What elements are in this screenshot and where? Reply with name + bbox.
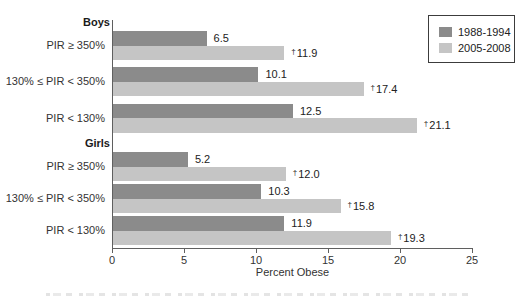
value-label: 5.2 — [195, 153, 210, 165]
category-label: 130% ≤ PIR < 350% — [0, 75, 105, 87]
bar-1988-1994 — [113, 216, 284, 231]
bar-1988-1994 — [113, 31, 207, 46]
legend-box: 1988-1994 2005-2008 — [428, 15, 515, 63]
value-label: 6.5 — [214, 32, 229, 44]
bar-2005-2008 — [113, 167, 286, 182]
bar-2005-2008 — [113, 46, 284, 61]
value-label: †17.4 — [371, 83, 398, 95]
category-label: 130% ≤ PIR < 350% — [0, 192, 105, 204]
x-axis-line — [112, 248, 473, 249]
legend-entry-2005-2008: 2005-2008 — [439, 40, 514, 55]
dagger-footnote-marker: † — [291, 47, 296, 56]
bar-2005-2008 — [113, 118, 417, 133]
dagger-footnote-marker: † — [398, 232, 403, 241]
dagger-footnote-marker: † — [293, 168, 298, 177]
x-axis-tick-label: 0 — [99, 254, 125, 266]
value-label: 10.3 — [268, 185, 289, 197]
section-header-girls: Girls — [0, 137, 110, 149]
bar-2005-2008 — [113, 231, 391, 246]
value-label: 12.5 — [300, 105, 321, 117]
x-axis-tick — [256, 249, 257, 253]
cropped-caption-fragment — [46, 293, 470, 296]
legend-label: 2005-2008 — [458, 42, 511, 54]
legend-label: 1988-1994 — [458, 26, 511, 38]
x-axis-tick-label: 25 — [459, 254, 485, 266]
x-axis-tick-label: 5 — [171, 254, 197, 266]
category-label: PIR < 130% — [0, 112, 105, 124]
bar-1988-1994 — [113, 152, 188, 167]
dagger-footnote-marker: † — [424, 119, 429, 128]
bar-2005-2008 — [113, 82, 364, 97]
value-label: †15.8 — [348, 200, 375, 212]
value-label: 11.9 — [291, 217, 312, 229]
dagger-footnote-marker: † — [348, 200, 353, 209]
x-axis-tick — [112, 249, 113, 253]
x-axis-tick — [472, 249, 473, 253]
x-axis-tick-label: 15 — [315, 254, 341, 266]
value-label: †11.9 — [291, 47, 317, 59]
legend-swatch-light — [439, 43, 452, 53]
section-header-boys: Boys — [0, 16, 110, 28]
x-axis-tick — [184, 249, 185, 253]
value-label: †12.0 — [293, 168, 320, 180]
dagger-footnote-marker: † — [371, 83, 376, 92]
bar-1988-1994 — [113, 104, 293, 119]
bar-1988-1994 — [113, 184, 261, 199]
category-label: PIR ≥ 350% — [0, 39, 105, 51]
x-axis-label: Percent Obese — [112, 266, 473, 278]
x-axis-tick — [400, 249, 401, 253]
bar-1988-1994 — [113, 67, 258, 82]
x-axis-tick — [328, 249, 329, 253]
x-axis-tick-label: 20 — [387, 254, 413, 266]
value-label: †21.1 — [424, 119, 451, 131]
value-label: †19.3 — [398, 232, 425, 244]
legend-swatch-dark — [439, 27, 452, 37]
category-label: PIR < 130% — [0, 224, 105, 236]
value-label: 10.1 — [265, 68, 286, 80]
legend-entry-1988-1994: 1988-1994 — [439, 24, 514, 39]
category-label: PIR ≥ 350% — [0, 160, 105, 172]
x-axis-tick-label: 10 — [243, 254, 269, 266]
bar-chart-figure: 0510152025BoysPIR ≥ 350%6.5†11.9130% ≤ P… — [0, 0, 521, 297]
bar-2005-2008 — [113, 199, 341, 214]
